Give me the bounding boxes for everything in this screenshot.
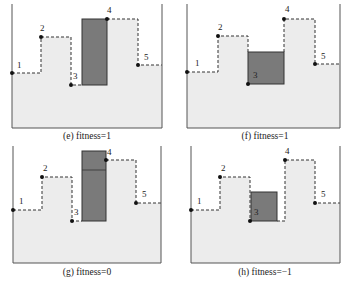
corner-point-4 — [105, 17, 109, 21]
placed-box — [82, 19, 107, 85]
corner-point-label: 4 — [285, 4, 290, 14]
panel-e: 12345(e) fitness=1 — [10, 4, 162, 142]
corner-point-3 — [246, 82, 250, 86]
corner-point-label: 1 — [19, 196, 24, 206]
corner-point-3 — [248, 219, 252, 223]
corner-point-label: 5 — [142, 189, 147, 199]
panel-h: 12345(h) fitness=−1 — [189, 146, 340, 278]
panel-caption: (g) fitness=0 — [63, 267, 112, 278]
corner-point-1 — [10, 71, 14, 75]
panel-f: 12345(f) fitness=1 — [185, 4, 340, 142]
corner-point-label: 2 — [40, 23, 45, 33]
corner-point-label: 4 — [285, 146, 290, 156]
corner-point-1 — [189, 208, 193, 212]
corner-point-1 — [185, 70, 189, 74]
corner-point-label: 5 — [321, 51, 326, 61]
corner-point-label: 5 — [144, 52, 149, 62]
corner-point-label: 3 — [74, 207, 79, 217]
corner-point-2 — [39, 35, 43, 39]
corner-point-5 — [313, 62, 317, 66]
corner-point-2 — [218, 175, 222, 179]
corner-point-2 — [216, 34, 220, 38]
corner-point-label: 4 — [107, 147, 112, 157]
corner-point-label: 2 — [218, 22, 223, 32]
corner-point-4 — [282, 17, 286, 21]
corner-point-2 — [40, 175, 44, 179]
corner-point-label: 5 — [321, 189, 326, 199]
corner-point-5 — [313, 201, 317, 205]
corner-point-3 — [70, 219, 74, 223]
corner-point-label: 4 — [107, 5, 112, 15]
panel-caption: (f) fitness=1 — [242, 131, 289, 142]
corner-point-4 — [283, 158, 287, 162]
corner-point-label: 2 — [43, 163, 48, 173]
corner-point-label: 3 — [253, 70, 258, 80]
corner-point-label: 1 — [197, 196, 202, 206]
corner-point-4 — [104, 158, 108, 162]
panel-caption: (e) fitness=1 — [63, 131, 111, 142]
corner-point-label: 1 — [17, 60, 22, 70]
corner-point-label: 1 — [195, 58, 200, 68]
panel-caption: (h) fitness=−1 — [238, 267, 292, 278]
corner-point-3 — [69, 83, 73, 87]
corner-point-label: 2 — [221, 163, 226, 173]
corner-point-label: 3 — [254, 207, 259, 217]
panel-g: 12345(g) fitness=0 — [11, 146, 161, 278]
packing-figure: 12345(e) fitness=112345(f) fitness=11234… — [0, 0, 344, 281]
corner-point-label: 3 — [73, 71, 78, 81]
corner-point-5 — [136, 63, 140, 67]
corner-point-1 — [11, 208, 15, 212]
corner-point-5 — [134, 201, 138, 205]
placed-box — [82, 151, 106, 221]
